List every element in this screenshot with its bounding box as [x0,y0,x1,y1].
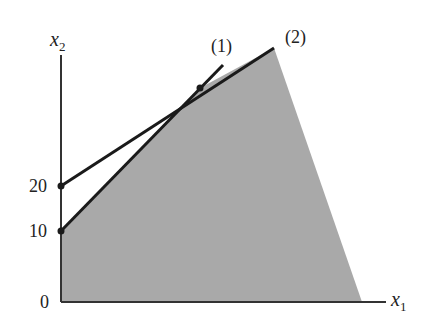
x1-axis-label: x1 [390,288,406,314]
intercept-point-20 [58,183,65,190]
constraint-label-2: (2) [285,27,306,48]
constraint-label-1: (1) [211,36,232,57]
x2-axis-label: x2 [49,28,65,54]
intercept-point-10 [58,228,65,235]
y-tick-10: 10 [29,221,47,241]
lp-diagram: x2 x1 0 10 20 (1) (2) [0,0,430,329]
intersection-point [197,85,204,92]
feasible-region [61,48,362,302]
origin-label: 0 [40,292,49,312]
y-tick-20: 20 [29,176,47,196]
